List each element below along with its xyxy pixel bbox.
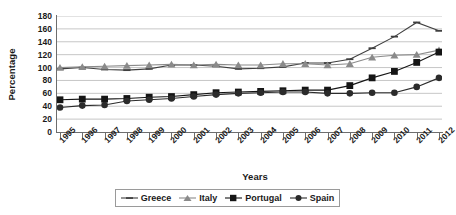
series-spain <box>57 75 442 111</box>
plot-area <box>57 16 442 132</box>
data-point-marker <box>123 69 130 71</box>
data-point-marker <box>57 96 63 103</box>
y-axis-tick-label: 160 <box>38 24 52 34</box>
data-point-marker <box>347 90 354 97</box>
data-point-marker <box>257 89 264 96</box>
legend-marker-square-icon <box>225 193 242 203</box>
y-axis-title-text: Percentage <box>6 48 17 100</box>
y-axis-tick-label: 140 <box>38 37 52 47</box>
legend-item-portugal[interactable]: Portugal <box>225 193 282 203</box>
data-point-marker <box>413 22 420 24</box>
data-point-marker <box>391 68 398 75</box>
data-point-marker <box>302 89 309 96</box>
x-axis-title: Years <box>200 171 310 182</box>
data-point-marker <box>436 75 442 82</box>
data-point-marker <box>324 90 331 97</box>
data-point-marker <box>101 96 108 103</box>
data-point-marker <box>413 84 420 91</box>
data-point-marker <box>280 89 287 96</box>
y-axis-tick-label: 80 <box>43 75 52 85</box>
data-point-marker <box>391 36 398 38</box>
data-point-marker <box>346 58 353 60</box>
y-axis-tick-label: 120 <box>38 50 52 60</box>
plot-svg <box>57 16 442 132</box>
legend-marker-circle-icon <box>290 193 307 203</box>
y-axis-tick-label: 0 <box>47 127 52 137</box>
chart-legend: GreeceItalyPortugalSpain <box>115 189 340 207</box>
data-point-marker <box>79 102 86 109</box>
series-italy <box>57 47 442 71</box>
data-point-marker <box>168 95 175 102</box>
data-point-marker <box>146 96 153 103</box>
data-point-marker <box>369 89 376 96</box>
legend-item-greece[interactable]: Greece <box>121 193 172 203</box>
data-point-marker <box>436 49 442 56</box>
data-point-marker <box>190 93 197 100</box>
data-point-marker <box>435 30 442 32</box>
series-line <box>60 50 439 67</box>
data-point-marker <box>413 59 420 66</box>
data-point-marker <box>235 90 242 97</box>
y-axis-tick-label: 100 <box>38 63 52 73</box>
data-point-marker <box>369 47 376 49</box>
legend-marker-dash-icon <box>121 193 138 203</box>
y-axis-tick-label: 40 <box>43 101 52 111</box>
series-line <box>60 78 439 108</box>
data-point-marker <box>57 104 63 111</box>
series-line <box>60 22 439 70</box>
legend-label: Spain <box>310 193 335 203</box>
data-point-marker <box>101 102 108 109</box>
y-axis-tick-label: 60 <box>43 88 52 98</box>
legend-item-spain[interactable]: Spain <box>290 193 335 203</box>
data-point-marker <box>79 96 86 103</box>
y-axis-tick-label: 180 <box>38 11 52 21</box>
y-axis-tick-labels: 020406080100120140160180 <box>20 11 54 137</box>
legend-label: Italy <box>199 193 217 203</box>
data-point-marker <box>391 89 398 96</box>
data-point-marker <box>369 74 376 81</box>
data-point-marker <box>235 68 242 70</box>
data-point-marker <box>346 82 353 89</box>
data-point-marker <box>124 98 131 105</box>
y-axis-line <box>56 15 57 133</box>
legend-marker-triangle-icon <box>179 193 196 203</box>
legend-label: Greece <box>141 193 172 203</box>
y-axis-title: Percentage <box>2 22 20 126</box>
y-axis-tick-label: 20 <box>43 114 52 124</box>
legend-label: Portugal <box>245 193 282 203</box>
data-point-marker <box>146 68 153 70</box>
legend-item-italy[interactable]: Italy <box>179 193 217 203</box>
data-point-marker <box>213 91 220 98</box>
series-portugal <box>57 49 442 103</box>
